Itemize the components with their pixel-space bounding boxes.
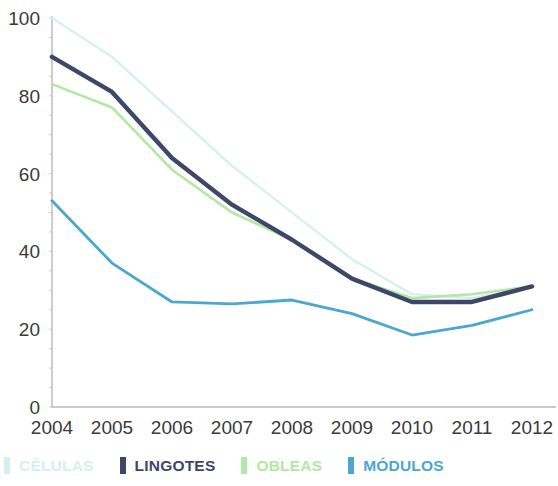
x-tick-label: 2011 — [452, 417, 493, 438]
x-tick-label: 2004 — [31, 417, 74, 438]
legend-item-células[interactable]: CÉLULAS — [4, 457, 94, 475]
series-line-obleas — [52, 84, 532, 298]
axis-lines — [52, 16, 556, 407]
x-tick-label: 2012 — [511, 417, 553, 438]
x-tick-label: 2008 — [271, 417, 313, 438]
legend-item-módulos[interactable]: MÓDULOS — [348, 457, 444, 475]
legend-label: LINGOTES — [135, 457, 216, 475]
legend-swatch-icon — [241, 457, 247, 474]
legend-swatch-icon — [4, 457, 10, 474]
y-tick-label: 0 — [29, 397, 40, 418]
series-line-módulos — [52, 201, 532, 335]
x-tick-label: 2010 — [391, 417, 433, 438]
legend-item-lingotes[interactable]: LINGOTES — [120, 457, 216, 475]
y-tick-label: 80 — [19, 86, 40, 107]
x-axis-tick-labels: 200420052006200720082009201020112012 — [31, 417, 553, 438]
data-series-group — [52, 18, 532, 335]
line-chart: 020406080100 200420052006200720082009201… — [0, 0, 558, 486]
legend-label: CÉLULAS — [19, 457, 94, 475]
y-tick-label: 60 — [19, 164, 40, 185]
x-tick-label: 2009 — [331, 417, 373, 438]
y-tick-label: 20 — [19, 319, 40, 340]
x-tick-label: 2006 — [151, 417, 193, 438]
y-tick-label: 100 — [8, 8, 40, 29]
x-tick-label: 2007 — [211, 417, 253, 438]
chart-legend: CÉLULASLINGOTESOBLEASMÓDULOS — [0, 445, 558, 486]
y-tick-label: 40 — [19, 241, 40, 262]
series-line-células — [52, 18, 532, 298]
legend-swatch-icon — [120, 457, 126, 474]
series-line-lingotes — [52, 57, 532, 302]
legend-label: MÓDULOS — [363, 457, 444, 475]
chart-svg: 020406080100 200420052006200720082009201… — [0, 0, 558, 445]
plot-area: 020406080100 200420052006200720082009201… — [0, 0, 558, 445]
x-tick-label: 2005 — [91, 417, 133, 438]
legend-item-obleas[interactable]: OBLEAS — [241, 457, 322, 475]
legend-swatch-icon — [348, 457, 354, 474]
legend-label: OBLEAS — [256, 457, 322, 475]
y-axis-tick-labels: 020406080100 — [8, 8, 40, 418]
